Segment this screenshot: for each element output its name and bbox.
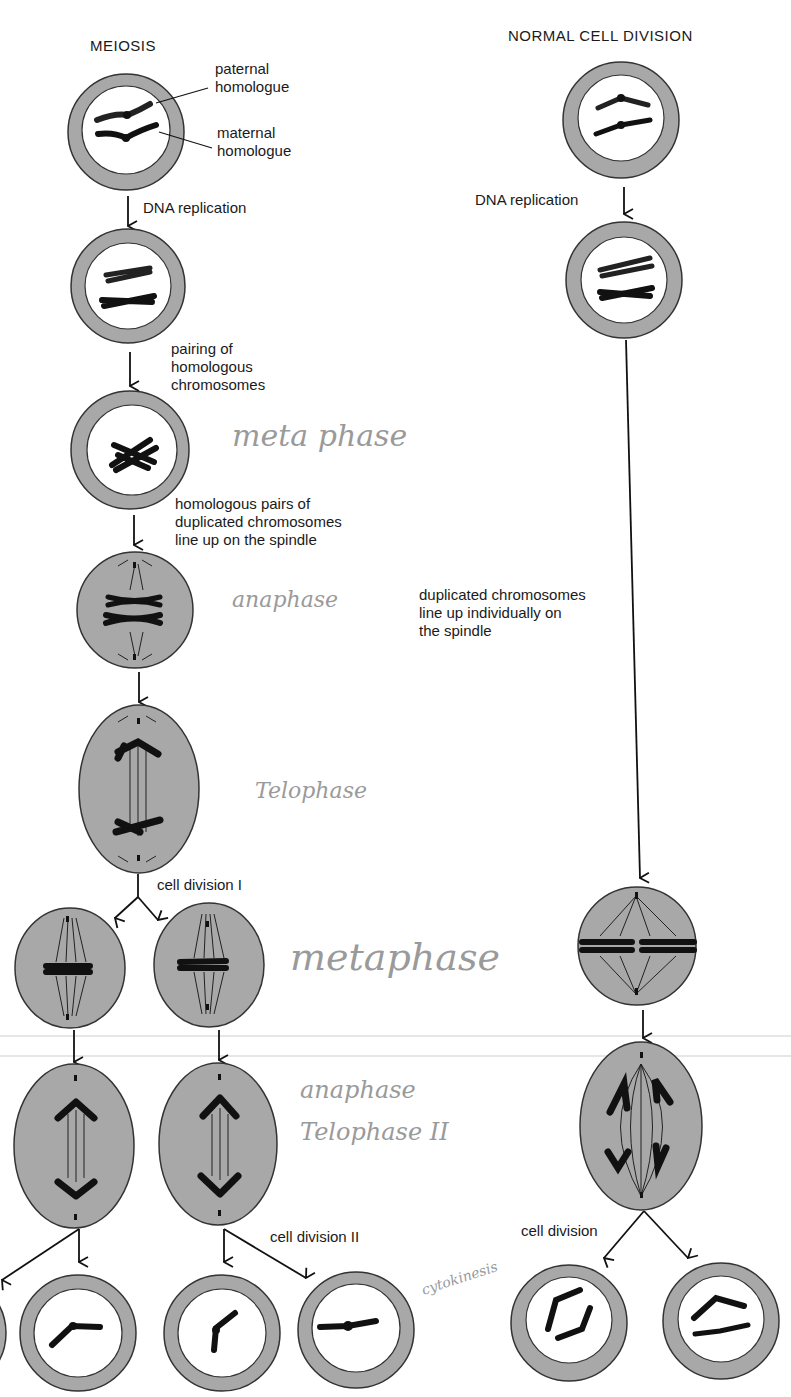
- split-arrows-division-ii: [2, 1229, 306, 1280]
- cell-gamete-3: [298, 1272, 414, 1388]
- label-line-up-spindle: homologous pairs of duplicated chromosom…: [175, 495, 342, 549]
- cell-normal-daughter-left: [511, 1265, 627, 1381]
- split-arrow-division-i: [115, 874, 158, 920]
- handwritten-metaphase-2: metaphase: [290, 935, 500, 979]
- cell-meiosis-anaphase-ii-left: [14, 1064, 134, 1228]
- label-maternal-homologue: maternal homologue: [217, 124, 291, 160]
- cell-meiosis-metaphase-i: [77, 552, 193, 668]
- cell-meiosis-paired: [71, 391, 189, 509]
- handwritten-telophase-2: Telophase II: [300, 1118, 449, 1146]
- cell-gamete-0: [0, 1275, 6, 1391]
- split-arrows-normal-division: [604, 1211, 688, 1258]
- cell-meiosis-initial: [68, 74, 212, 190]
- label-cell-division-i: cell division I: [157, 876, 242, 894]
- meiosis-diagram: [0, 0, 791, 1397]
- handwritten-anaphase-2: anaphase: [300, 1076, 416, 1104]
- cell-normal-initial: [563, 62, 679, 178]
- handwritten-telophase-1: Telophase: [255, 778, 367, 803]
- cell-meiosis-replicated: [71, 229, 185, 343]
- meiosis-title: MEIOSIS: [90, 37, 156, 55]
- cell-normal-metaphase: [578, 887, 696, 1005]
- label-cell-division: cell division: [521, 1222, 598, 1240]
- cell-gamete-2: [164, 1275, 280, 1391]
- handwritten-anaphase-1: anaphase: [232, 587, 338, 612]
- cell-normal-replicated: [566, 222, 682, 338]
- cell-gamete-1: [20, 1275, 136, 1391]
- label-paternal-homologue: paternal homologue: [215, 60, 289, 96]
- label-line-up-individually: duplicated chromosomes line up individua…: [419, 586, 586, 640]
- cell-meiosis-anaphase-ii-right: [159, 1063, 277, 1225]
- cell-meiosis-metaphase-ii-left: [15, 908, 125, 1028]
- normal-division-title: NORMAL CELL DIVISION: [508, 27, 693, 45]
- cell-meiosis-metaphase-ii-right: [154, 903, 264, 1027]
- label-pairing: pairing of homologous chromosomes: [171, 340, 265, 394]
- handwritten-metaphase-1: meta phase: [232, 418, 407, 453]
- cell-normal-daughter-right: [663, 1263, 779, 1379]
- label-dna-replication-meiosis: DNA replication: [143, 199, 246, 217]
- label-dna-replication-normal: DNA replication: [475, 191, 578, 209]
- arrow-long-down: [626, 340, 640, 878]
- label-cell-division-ii: cell division II: [270, 1228, 359, 1246]
- cell-meiosis-anaphase-i: [79, 705, 199, 873]
- cell-normal-anaphase: [580, 1042, 702, 1210]
